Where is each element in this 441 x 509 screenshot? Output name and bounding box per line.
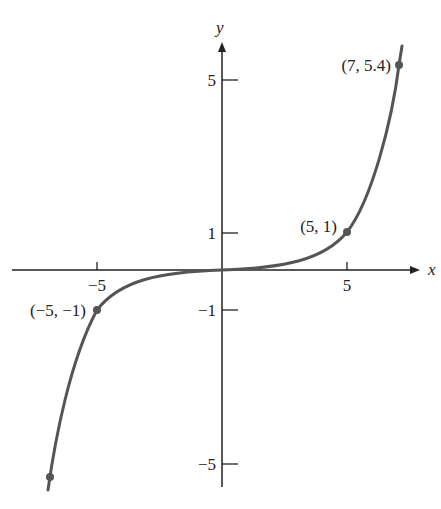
x-tick-label-5: 5 xyxy=(343,276,352,295)
point-neg5-neg1 xyxy=(93,306,101,314)
y-tick-label-neg1: −1 xyxy=(198,301,216,320)
chart-canvas: x y −5 5 5 1 −1 −5 (7, 5.4) (5, 1) (−5, … xyxy=(0,0,441,509)
y-tick-label-1: 1 xyxy=(208,224,217,243)
y-tick-label-5: 5 xyxy=(208,71,217,90)
cubic-curve xyxy=(48,46,402,490)
point-label-neg5-neg1: (−5, −1) xyxy=(30,301,86,320)
point-label-5-1: (5, 1) xyxy=(300,217,337,236)
point-7-5.4 xyxy=(395,61,403,69)
x-axis-label: x xyxy=(427,260,436,279)
point-neg7-neg5.4 xyxy=(46,473,54,481)
x-tick-label-neg5: −5 xyxy=(88,276,106,295)
point-label-7-5.4: (7, 5.4) xyxy=(341,56,391,75)
y-tick-label-neg5: −5 xyxy=(198,455,216,474)
point-5-1 xyxy=(343,228,351,236)
y-axis-arrow-icon xyxy=(218,42,226,52)
y-axis-label: y xyxy=(214,18,224,37)
x-axis-arrow-icon xyxy=(410,266,420,274)
